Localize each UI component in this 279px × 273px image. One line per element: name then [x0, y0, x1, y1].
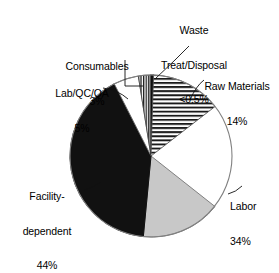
label-labor: Labor 34% [230, 178, 276, 270]
label-raw-value: 14% [196, 116, 278, 128]
label-raw-line1: Raw Materials [196, 81, 278, 93]
label-labor-value: 34% [230, 236, 276, 248]
label-labor-line1: Labor [230, 201, 276, 213]
label-facility-value: 44% [5, 260, 89, 272]
label-facility-dependent: Facility- dependent 44% [5, 168, 89, 273]
label-lab-value: 5% [39, 123, 125, 135]
label-lab-line1: Lab/QC/QA [39, 88, 125, 100]
pie-slice-labor[interactable] [143, 156, 215, 237]
label-facility-line1: Facility- [5, 191, 89, 203]
label-raw-materials: Raw Materials 14% [196, 58, 278, 150]
label-facility-line2: dependent [5, 226, 89, 238]
label-waste-line1: Waste [146, 25, 242, 37]
label-lab-qc-qa: Lab/QC/QA 5% [39, 65, 125, 157]
